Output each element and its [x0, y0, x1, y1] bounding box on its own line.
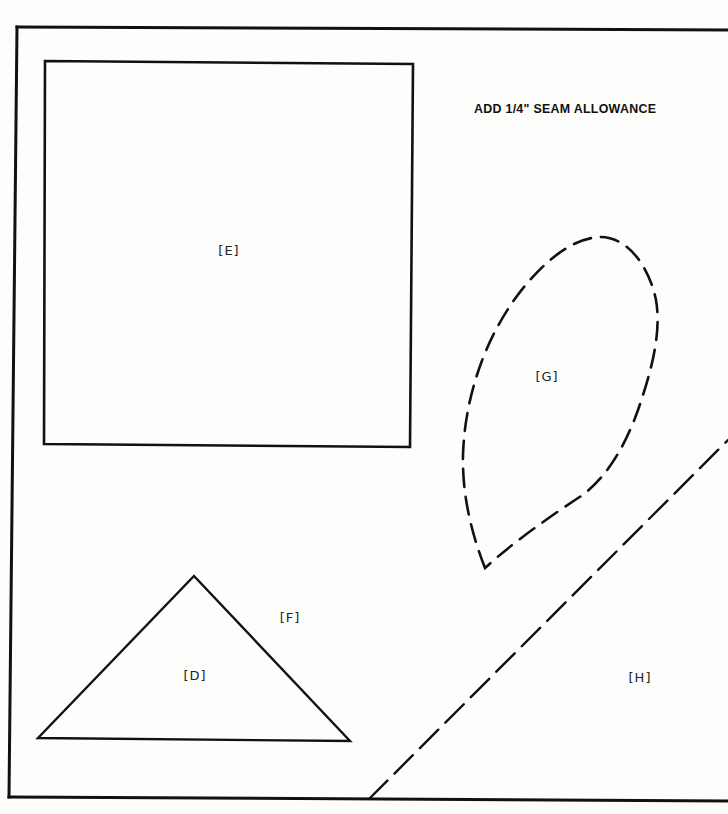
outer-border [9, 27, 728, 801]
piece-g-label: [G] [535, 369, 558, 384]
piece-e-label: [E] [218, 243, 239, 258]
piece-d-outline [38, 576, 350, 741]
piece-h-dashed-line [369, 440, 728, 799]
piece-g-outline [463, 237, 658, 568]
pattern-drawing [0, 0, 728, 814]
piece-f-label: [F] [280, 610, 301, 625]
pattern-page: ADD 1/4" SEAM ALLOWANCE [E] [G] [F] [D] … [0, 0, 728, 814]
piece-h-label: [H] [629, 670, 652, 685]
seam-allowance-note: ADD 1/4" SEAM ALLOWANCE [474, 101, 656, 116]
piece-d-label: [D] [183, 668, 206, 683]
